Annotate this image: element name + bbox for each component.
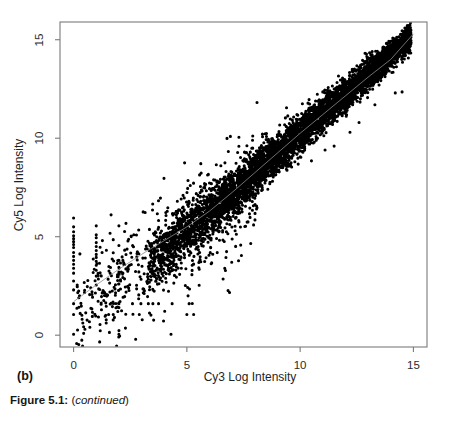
x-axis-tick-label: 15 xyxy=(407,360,420,372)
caption-separator: : xyxy=(64,394,68,406)
scatter-plot-canvas xyxy=(0,0,452,424)
figure-caption: Figure 5.1: (continued) xyxy=(10,395,129,407)
y-axis-title: Cy5 Log Intensity xyxy=(13,139,25,232)
x-axis-title: Cy3 Log Intensity xyxy=(204,371,297,383)
figure-container: 0 5 10 15 0 5 10 15 Cy3 Log Intensity Cy… xyxy=(0,0,452,424)
caption-figure-number: Figure 5.1 xyxy=(10,394,64,406)
x-axis-tick-label: 5 xyxy=(184,360,190,372)
panel-label: (b) xyxy=(17,370,33,383)
caption-emphasis: continued xyxy=(75,394,125,406)
y-axis-tick-label: 0 xyxy=(34,332,46,338)
y-axis-tick-label: 5 xyxy=(34,233,46,239)
y-axis-tick-label: 15 xyxy=(34,33,46,46)
caption-paren-close: ) xyxy=(125,394,129,406)
y-axis-tick-label: 10 xyxy=(34,132,46,145)
x-axis-tick-label: 0 xyxy=(70,360,76,372)
